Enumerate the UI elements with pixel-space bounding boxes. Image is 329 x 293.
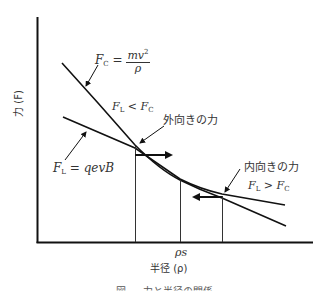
outward-leader-line: [140, 126, 164, 143]
fc-fraction: mv2 ρ: [126, 46, 149, 75]
inward-leader-line: [225, 169, 240, 192]
fl-equation: FL = qevB: [53, 162, 114, 176]
rho-s-tick-label: ρs: [175, 247, 187, 258]
outward-force-label: 外向きの力: [163, 115, 218, 126]
x-axis-label: 半径 (ρ): [150, 264, 187, 274]
diagram-canvas: [0, 0, 329, 293]
y-axis-label: 力 (F): [10, 90, 25, 117]
fc-curve: [62, 63, 286, 226]
fc-numerator: mv2: [126, 46, 149, 63]
inward-force-label: 内向きの力: [244, 162, 299, 173]
fc-lhs-sub: C: [103, 60, 108, 68]
fc-denominator: ρ: [126, 63, 149, 75]
fc-equals: =: [113, 53, 123, 67]
fc-equation: FC = mv2 ρ: [95, 46, 150, 75]
fl-gt-fc-label: FL > FC: [248, 180, 290, 193]
fl-lt-fc-label: FL < FC: [112, 101, 154, 114]
force-radius-diagram: 力 (F) FC = mv2 ρ FL < FC 外向きの力 FL = qevB…: [0, 0, 329, 293]
fl-leader-line: [65, 132, 86, 160]
